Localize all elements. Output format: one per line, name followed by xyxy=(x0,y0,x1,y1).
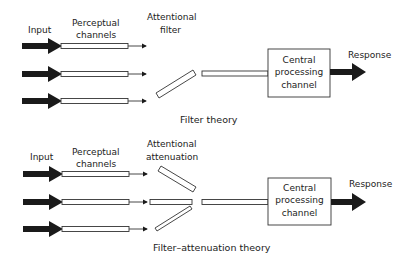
central-label-line3: channel xyxy=(282,208,318,218)
central-label-line2: processing xyxy=(275,195,324,205)
input-arrow xyxy=(23,166,63,182)
diagram-caption: Filter–attenuation theory xyxy=(153,242,271,253)
perceptual-channel-bar xyxy=(61,99,128,104)
perceptual-channel-bar xyxy=(62,200,129,205)
response-arrow xyxy=(330,63,366,81)
filter-attenuation-theory-diagram: Input Perceptual channels Attentional at… xyxy=(23,139,393,253)
input-label: Input xyxy=(28,25,52,35)
input-label: Input xyxy=(30,152,54,162)
perceptual-label-line1: Perceptual xyxy=(72,18,120,28)
input-arrow xyxy=(23,221,63,237)
attentional-label-line1: Attentional xyxy=(147,12,197,22)
input-channel-row xyxy=(23,221,147,237)
central-label-line2: processing xyxy=(275,67,324,77)
central-label-line1: Central xyxy=(283,55,316,65)
perceptual-channel-bar xyxy=(62,227,129,232)
attenuated-channel-gate-lower xyxy=(155,206,192,231)
perceptual-channel-bar xyxy=(61,72,128,77)
selected-channel-bar xyxy=(202,71,268,76)
filter-theory-diagram: Input Perceptual channels Attentional fi… xyxy=(22,12,392,125)
diagram-caption: Filter theory xyxy=(180,114,238,125)
attentional-label-line2: filter xyxy=(160,25,181,35)
passed-channel-gate xyxy=(150,200,192,205)
central-label-line1: Central xyxy=(283,183,316,193)
input-channel-row xyxy=(23,194,147,210)
selected-channel-bar xyxy=(202,200,268,205)
input-channel-row xyxy=(22,93,146,109)
attention-theories-diagram: Input Perceptual channels Attentional fi… xyxy=(0,0,410,264)
attentional-label-line1: Attentional xyxy=(147,139,197,149)
perceptual-label-line2: channels xyxy=(76,159,117,169)
input-arrow xyxy=(22,66,62,82)
attenuated-channel-gate-upper xyxy=(158,166,196,192)
response-label: Response xyxy=(348,50,392,60)
input-arrow xyxy=(23,194,63,210)
response-arrow xyxy=(331,193,366,211)
attentional-filter-gate xyxy=(156,70,196,98)
perceptual-channel-bar xyxy=(62,172,129,177)
perceptual-channel-bar xyxy=(61,44,128,49)
input-arrow xyxy=(22,93,62,109)
perceptual-label-line2: channels xyxy=(76,30,117,40)
perceptual-label-line1: Perceptual xyxy=(72,147,120,157)
input-arrow xyxy=(22,38,62,54)
input-channel-row xyxy=(22,38,146,54)
response-label: Response xyxy=(349,179,393,189)
central-label-line3: channel xyxy=(281,80,317,90)
input-channel-row xyxy=(22,66,146,82)
attentional-label-line2: attenuation xyxy=(146,152,198,162)
